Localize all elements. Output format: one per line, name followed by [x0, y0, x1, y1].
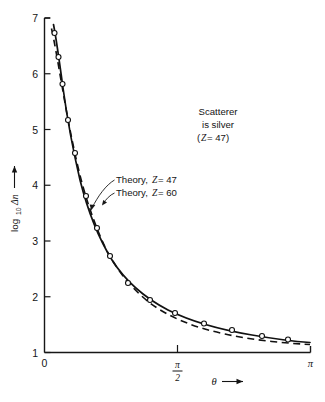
data-point [52, 31, 57, 36]
data-point [286, 337, 291, 342]
theory-z60-prefix: Theory, [116, 187, 148, 198]
curve-theory-z60 [52, 29, 311, 345]
x-axis-theta-symbol: θ [211, 376, 216, 387]
y-ticks-group [45, 18, 51, 353]
scatterer-line-1: Scatterer [199, 106, 239, 117]
figure-container: 7 6 5 4 3 2 1 0 π 2 π θ [0, 0, 325, 402]
data-point [84, 194, 89, 199]
data-point [73, 151, 78, 156]
y-tick-label-5: 5 [32, 124, 38, 136]
data-point [260, 334, 265, 339]
y-tick-label-1: 1 [32, 347, 38, 359]
data-point [108, 254, 113, 259]
x-axis-arrow-head [237, 379, 244, 384]
scatterer-z-value: = 47) [207, 132, 229, 143]
data-point [148, 298, 153, 303]
theory-z60-annotation: Theory, Z = 60 [102, 187, 177, 206]
half-pi-denominator: 2 [175, 373, 180, 383]
y-tick-label-6: 6 [32, 68, 38, 80]
data-point [202, 321, 207, 326]
data-point [230, 328, 235, 333]
x-tick-label-half-pi: π 2 [173, 360, 183, 383]
y-axis-title-group: log 10 Δn [9, 166, 22, 232]
x-tick-label-pi: π [308, 358, 314, 369]
scatterer-annotation: Scatterer is silver ( Z = 47) [197, 106, 238, 143]
theory-z60-leader-arrow [102, 200, 107, 206]
y-tick-label-4: 4 [32, 179, 38, 191]
scatterer-line-3: ( Z = 47) [197, 132, 229, 143]
theory-z47-value: = 47 [158, 174, 177, 185]
theory-z60-value: = 60 [158, 187, 177, 198]
y-axis-arrow-head [12, 166, 17, 173]
curve-theory-z47 [54, 25, 311, 343]
y-tick-label-7: 7 [32, 12, 38, 24]
x-axis-title-group: θ [211, 376, 243, 387]
y-axis-label-subscript: 10 [15, 207, 22, 215]
half-pi-numerator: π [175, 360, 180, 370]
theory-z47-prefix: Theory, [116, 174, 148, 185]
y-axis-label-delta-n: Δn [9, 194, 20, 206]
x-tick-labels-group: 0 π 2 π [42, 357, 314, 383]
scatterer-line-2: is silver [202, 119, 235, 130]
y-axis-label-log: log [9, 219, 20, 232]
data-point [66, 118, 71, 123]
x-tick-label-zero: 0 [42, 357, 48, 369]
data-point [95, 226, 100, 231]
y-tick-labels-group: 7 6 5 4 3 2 1 [32, 12, 38, 359]
data-point [173, 311, 178, 316]
data-point [126, 281, 131, 286]
y-tick-label-3: 3 [32, 235, 38, 247]
y-tick-label-2: 2 [32, 291, 38, 303]
axes-group [45, 18, 311, 353]
scattering-chart: 7 6 5 4 3 2 1 0 π 2 π θ [0, 0, 325, 402]
data-point [56, 55, 61, 60]
data-point [60, 82, 65, 87]
